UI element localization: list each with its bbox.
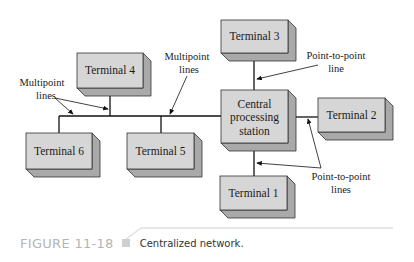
arrow-to-terminal4-line (55, 98, 108, 109)
centralized-network-diagram: Terminal 3 Terminal 4 Central processing… (0, 0, 414, 262)
figure-number: FIGURE 11-18 (20, 236, 114, 251)
caption-square-icon (122, 239, 130, 247)
terminal-4-label: Terminal 4 (85, 64, 135, 76)
central-processing-station-box: Central processing station (221, 90, 296, 151)
terminal-6-label: Terminal 6 (34, 145, 84, 157)
callout-multipoint-top-line1: Multipoint (165, 51, 210, 62)
callout-p2p-line-line1: Point-to-point (307, 50, 366, 61)
terminal-2-label: Terminal 2 (327, 109, 377, 121)
callout-p2p-lines-line2: lines (331, 184, 351, 195)
figure-caption: FIGURE 11-18 Centralized network. (20, 233, 244, 253)
terminal-2-box: Terminal 2 (318, 98, 393, 140)
central-label-line2: processing (230, 111, 279, 124)
arrow-to-bus-right (170, 76, 187, 114)
terminal-5-label: Terminal 5 (136, 145, 186, 157)
callout-multipoint-left-line1: Multipoint (20, 77, 65, 88)
terminal-4-box: Terminal 4 (77, 53, 151, 96)
callout-p2p-line-line2: line (328, 63, 344, 74)
terminal-5-box: Terminal 5 (127, 133, 202, 177)
terminal-6-box: Terminal 6 (26, 133, 100, 177)
arrow-to-bus (55, 98, 73, 114)
callout-multipoint-left-line2: lines (36, 90, 56, 101)
callout-multipoint-top-line2: lines (179, 64, 199, 75)
terminal-1-box: Terminal 1 (220, 176, 295, 218)
figure-caption-text: Centralized network. (140, 238, 244, 249)
terminal-3-label: Terminal 3 (230, 30, 280, 42)
arrow-to-terminal1-line (257, 163, 321, 168)
central-label-line3: station (239, 125, 270, 137)
arrow-to-terminal3-line (257, 65, 318, 79)
callout-p2p-lines-line1: Point-to-point (312, 171, 371, 182)
callout-multipoint-top: Multipoint lines (165, 51, 210, 114)
terminal-1-label: Terminal 1 (229, 187, 279, 199)
central-label-line1: Central (238, 98, 272, 110)
terminal-3-box: Terminal 3 (221, 20, 296, 61)
